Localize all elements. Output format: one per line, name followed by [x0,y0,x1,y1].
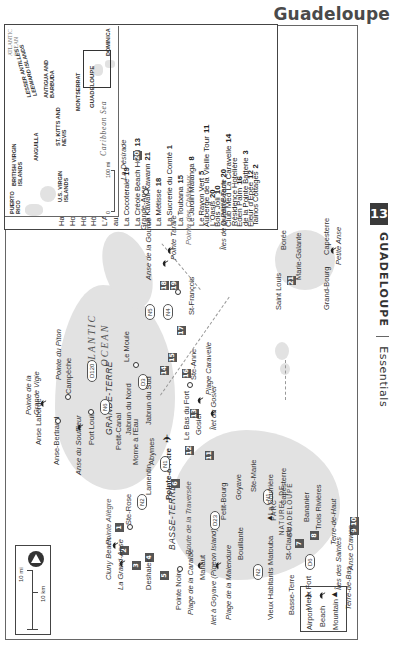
north-arrow-icon [28,551,44,567]
label-port-louis: Port Louis [88,411,96,445]
label-st-claude: St-Claude [285,527,293,560]
scale-bar-km [32,592,38,630]
hotel-marker-19: 19 [170,281,179,290]
hotel-marker-21: 21 [287,276,296,285]
beach-icon [195,561,204,570]
chapter-title: GUADELOUPE [377,232,390,327]
label-lamentin: Lamentin [145,464,153,495]
inset-label-montserrat: MONTSERRAT [75,73,81,111]
hotel-marker-17: 17 [177,326,186,335]
hotel-marker-3: 3 [132,561,141,570]
inset-puerto-rico [25,204,43,216]
label-saint-louis: Saint Louis [275,273,283,310]
hotel-entry: Le Rayon Vert5 [197,36,208,226]
hotel-marker-16: 16 [182,369,191,378]
label-jabrun-nord: Jabrun du Nord [125,383,133,435]
town-marker [55,418,61,424]
road-n4: N4 [163,304,173,320]
label-grand-bourg: Grand-Bourg [323,267,331,310]
town-marker [127,524,133,530]
label-petit-canal: Petit-Canal [115,413,123,450]
label-desirade: La Désirade [120,140,128,180]
hotel-entry: La Sucrerie du Comté1 [165,36,176,226]
inset-label-bvi: BRITISH VIRGIN ISLANDS [11,126,23,186]
label-ste-anne: Ste-Anne [190,349,198,380]
inset-label-guadeloupe: GUADELOUPE [89,66,96,108]
label-route-traversee: Route de la Traversée [185,481,193,555]
inset-label-antigua: ANTIGUA AND BARBUDA [43,53,55,98]
label-st-francois: St-François [188,277,196,315]
inset-scale-bar [111,170,115,212]
hotel-marker-7: 7 [295,539,304,548]
label-petite-terre: Îles de la Petite Terre [220,179,228,250]
label-morne-eau: Morne à l'Eau [132,419,140,465]
legend-label-airport: Airport [306,608,314,630]
label-pointe-chateaux: Pointe des Châteaux [185,175,193,245]
label-bananier: Bananier [303,492,311,522]
island-saintes [275,342,289,360]
label-basse-terre-town: Basse-Terre [288,575,296,615]
legend-row-mountain: Mountain ▲ [329,590,342,630]
label-abymes: Abymes [148,438,156,465]
label-vieux-habitants: Vieux Habitants [267,568,275,620]
label-marie-galante: Marie-Galante [295,232,303,280]
hotel-marker-15: 15 [168,353,177,362]
town-marker [133,362,139,368]
label-gosier: Gosier [195,413,203,435]
label-ste-marie: Ste-Marie [250,459,258,492]
town-marker [177,566,183,572]
scale-label-miles: 10 mi [18,567,24,582]
map-stage: Auberge de la Vieille Tour11 Bois Joli10… [5,25,358,640]
label-vieux-fort: Vieux Fort [305,576,313,610]
label-anse-crawen: Anse Crawen [347,525,355,570]
inset-scale-100: 100 mi [105,161,111,178]
road-n6: N6 [100,399,110,415]
label-boree: Borée [280,230,288,250]
label-plage-caravelle: Plage Caravelle [205,342,213,395]
label-campeche: Campêche [65,358,73,394]
inset-label-atlantic: ATLANTIC OCEAN [7,28,19,56]
label-plage-caraibe: Plage de la Caraïbe [187,549,195,615]
inset-label-anguilla: ANGUILLA [33,133,39,161]
beach-icon [317,591,326,600]
label-ste-rose: Ste-Rose [125,494,133,525]
hotel-marker-20: 20 [133,151,142,160]
beach-icon [75,423,84,432]
label-capesterre: Capesterre [280,468,288,505]
beach-icon [38,399,47,408]
inset-label-st-kitts: ST. KITTS AND NEVIS [55,106,67,146]
hotel-entry: La Métisse18 [154,36,165,226]
inset-label-caribbean: Caribbean Sea [100,101,108,156]
legend-label-beach: Beach [319,606,327,627]
inset-label-dominica: DOMINICA [105,28,111,56]
hotel-marker-18: 18 [160,281,169,290]
beach-icon [328,246,337,255]
hotel-marker-5: 5 [160,571,169,580]
label-trois-rivieres: Trois Rivières [315,484,323,530]
label-plage-malendure: Plage de la Malendure [225,545,233,620]
town-marker [65,394,71,400]
hotel-marker-14: 14 [160,366,169,375]
road-n2-north: N2 [137,494,147,510]
inset-scale-zero: 0 [105,211,111,214]
chapter-running-head: GUADELOUPEEssentials [376,232,390,407]
label-goyave: Goyave [235,474,243,500]
airport-icon: ✈ [161,434,174,443]
road-n5: N5 [145,304,155,320]
hotel-marker-11: 11 [205,451,214,460]
label-grand-anse-beach: La Grand-Anse [117,539,125,590]
label-jabrun-sud: Jabrun du Sud [145,376,153,425]
hotel-entry: de la Pointe Batterie3 [241,36,252,226]
beach-icon [160,259,169,268]
legend-row-beach: Beach [316,590,329,630]
label-bouillante: Bouillante [237,527,245,560]
hotel-marker-6: 6 [171,479,180,488]
label-pointe-piton: Pointe du Piton [55,329,63,380]
beach-icon [208,409,217,418]
town-marker [187,382,193,388]
label-terre-haut: Terre-de-Haut [330,499,338,545]
label-terre-bas: Terre-de-Bas [345,567,353,611]
hotel-entry: La Cocoteraie19 [122,36,133,226]
hotel-marker-8: 8 [310,531,319,540]
inset-usvi [40,186,56,202]
